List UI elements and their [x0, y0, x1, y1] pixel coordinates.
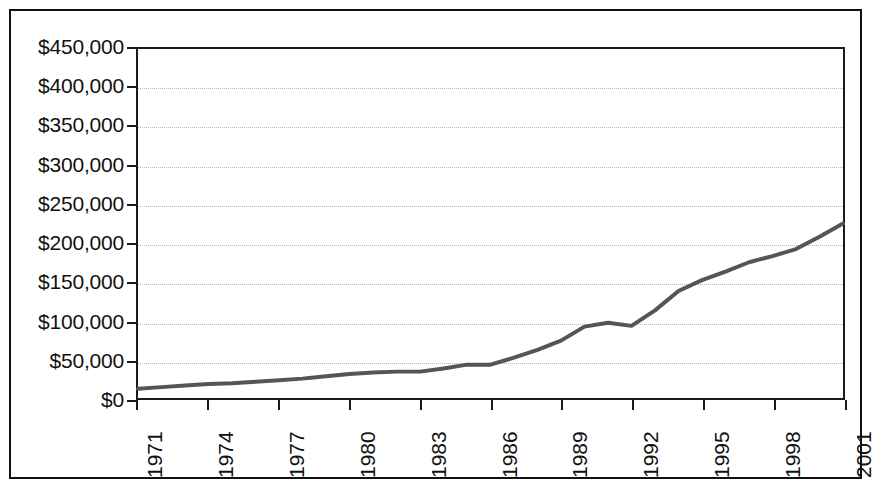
y-axis-tick-label: $400,000 [0, 75, 124, 96]
x-axis-tick [561, 400, 563, 410]
x-axis-tick [703, 400, 705, 410]
y-axis-tick-label: $100,000 [0, 311, 124, 332]
y-axis-tick [127, 204, 136, 206]
x-axis-tick [632, 400, 634, 410]
y-axis-tick [127, 282, 136, 284]
chart-figure: $450,000$400,000$350,000$300,000$250,000… [0, 0, 872, 489]
x-axis-tick [420, 400, 422, 410]
y-axis-tick [127, 47, 136, 49]
x-axis-tick [774, 400, 776, 410]
x-axis-tick [349, 400, 351, 410]
x-axis-tick-label: 1971 [144, 431, 165, 478]
y-axis-tick [127, 322, 136, 324]
x-axis-tick-label: 1986 [499, 431, 520, 478]
data-line-layer [138, 49, 843, 398]
x-axis-tick-label: 2001 [853, 431, 872, 478]
x-axis-tick-label: 1974 [215, 431, 236, 478]
x-axis-tick-label: 1989 [569, 431, 590, 478]
x-axis-tick [207, 400, 209, 410]
y-axis-tick [127, 243, 136, 245]
y-axis-tick [127, 165, 136, 167]
y-axis-labels: $450,000$400,000$350,000$300,000$250,000… [0, 0, 124, 489]
y-axis-tick-label: $200,000 [0, 232, 124, 253]
x-axis-tick-label: 1995 [711, 431, 732, 478]
x-axis-tick [845, 400, 847, 410]
y-axis-tick [127, 361, 136, 363]
y-axis-tick [127, 86, 136, 88]
plot-area [136, 47, 845, 400]
y-axis-tick-label: $250,000 [0, 193, 124, 214]
x-axis-tick-label: 1980 [357, 431, 378, 478]
x-axis-labels: 1971197419771980198319861989199219951998… [136, 400, 845, 489]
x-axis-tick-label: 1983 [428, 431, 449, 478]
x-axis-tick-label: 1977 [286, 431, 307, 478]
y-axis-tick-label: $0 [0, 389, 124, 410]
x-axis-tick [278, 400, 280, 410]
x-axis-tick-label: 1998 [782, 431, 803, 478]
y-axis-tick [127, 125, 136, 127]
y-axis-tick-label: $350,000 [0, 114, 124, 135]
y-axis-tick [127, 400, 136, 402]
y-axis-tick-label: $150,000 [0, 271, 124, 292]
y-axis-tick-label: $300,000 [0, 154, 124, 175]
y-axis-tick-label: $450,000 [0, 36, 124, 57]
x-axis-tick [491, 400, 493, 410]
x-axis-tick [136, 400, 138, 410]
x-axis-tick-label: 1992 [640, 431, 661, 478]
data-line-series [138, 224, 843, 389]
y-axis-tick-label: $50,000 [0, 350, 124, 371]
